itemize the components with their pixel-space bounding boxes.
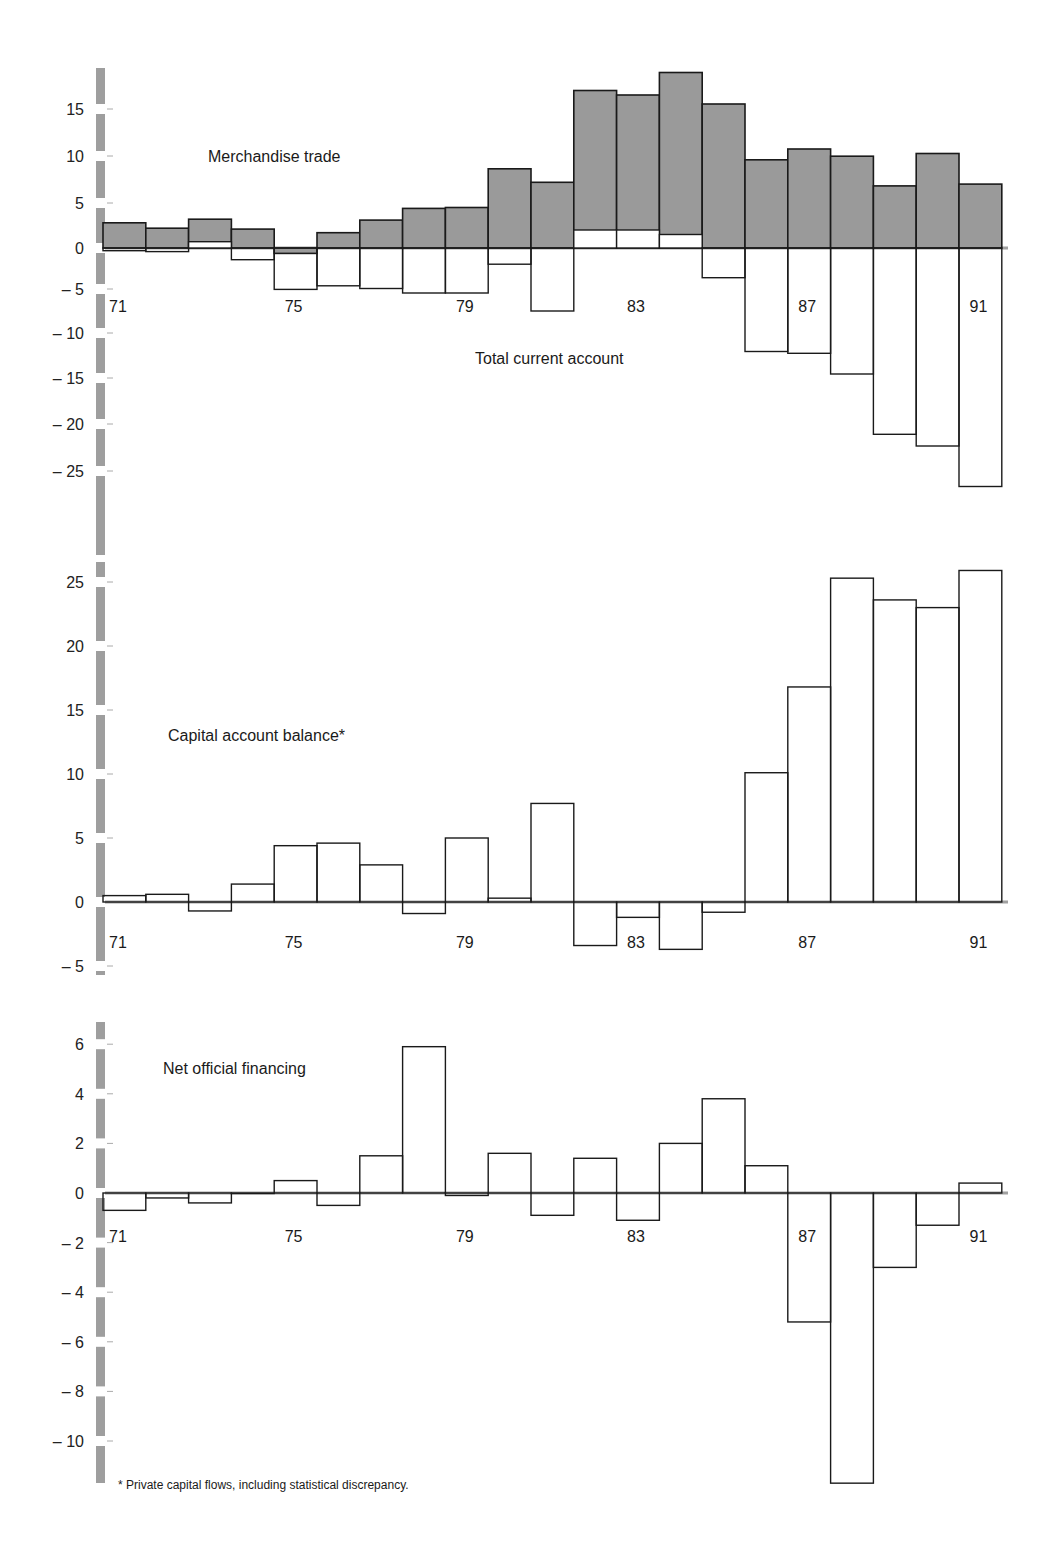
- axis-bar-segment: [96, 907, 105, 961]
- y-tick-label: 15: [66, 702, 84, 719]
- axis-bar-segment: [96, 1248, 105, 1288]
- value-bar: [403, 248, 446, 293]
- merchandise-bar: [788, 149, 831, 248]
- value-bar: [659, 235, 702, 249]
- value-bar: [745, 248, 788, 352]
- x-year-label: 71: [109, 1228, 127, 1245]
- value-bar: [403, 1047, 446, 1193]
- value-bar: [831, 578, 874, 902]
- value-bar: [488, 1153, 531, 1193]
- axis-bar-segment: [96, 429, 105, 466]
- value-bar: [788, 687, 831, 902]
- merchandise-bar: [916, 154, 959, 249]
- x-year-label: 75: [285, 934, 303, 951]
- x-year-label: 91: [970, 1228, 988, 1245]
- merchandise-bar: [103, 223, 146, 248]
- y-tick-label: 20: [66, 638, 84, 655]
- axis-bar-segment: [96, 338, 105, 373]
- y-tick-label: – 15: [53, 370, 84, 387]
- value-bar: [745, 773, 788, 902]
- series-label-current-account: Total current account: [475, 350, 624, 367]
- value-bar: [574, 1158, 617, 1193]
- axis-bar-segment: [96, 114, 105, 151]
- y-tick-label: 10: [66, 148, 84, 165]
- value-bar: [959, 570, 1002, 902]
- y-tick-label: 0: [75, 240, 84, 257]
- x-year-label: 91: [970, 934, 988, 951]
- value-bar: [274, 248, 317, 289]
- value-bar: [317, 843, 360, 902]
- y-tick-label: 10: [66, 766, 84, 783]
- y-tick-label: 25: [66, 574, 84, 591]
- merchandise-bar: [403, 208, 446, 248]
- value-bar: [103, 1193, 146, 1210]
- value-bar: [574, 230, 617, 248]
- panel-merchandise-current-account: 151050– 5– 10– 15– 20– 25717579838791Mer…: [53, 68, 1008, 555]
- merchandise-bar: [873, 186, 916, 248]
- value-bar: [360, 248, 403, 289]
- y-tick-label: 5: [75, 195, 84, 212]
- value-bar: [488, 898, 531, 902]
- value-bar: [617, 1193, 660, 1220]
- merchandise-bar: [231, 229, 274, 248]
- merchandise-bar: [531, 182, 574, 248]
- y-tick-label: 6: [75, 1036, 84, 1053]
- y-tick-label: 0: [75, 894, 84, 911]
- value-bar: [488, 248, 531, 264]
- x-year-label: 91: [970, 298, 988, 315]
- value-bar: [959, 248, 1002, 487]
- y-tick-label: – 20: [53, 416, 84, 433]
- value-bar: [831, 1193, 874, 1483]
- merchandise-bar: [702, 104, 745, 248]
- value-bar: [788, 1193, 831, 1322]
- panel-title: Net official financing: [163, 1060, 306, 1077]
- x-year-label: 79: [456, 298, 474, 315]
- y-tick-label: – 2: [62, 1235, 84, 1252]
- x-year-label: 83: [627, 1228, 645, 1245]
- x-year-label: 87: [798, 934, 816, 951]
- axis-bar-segment: [96, 161, 105, 198]
- value-bar: [702, 902, 745, 912]
- y-tick-label: – 6: [62, 1334, 84, 1351]
- axis-bar-segment: [96, 1099, 105, 1139]
- value-bar: [873, 248, 916, 434]
- value-bar: [574, 902, 617, 946]
- x-year-label: 83: [627, 298, 645, 315]
- y-tick-label: 0: [75, 1185, 84, 1202]
- value-bar: [916, 248, 959, 446]
- panel-net-official-financing: 6420– 2– 4– 6– 8– 10717579838791Net offi…: [53, 1022, 1008, 1483]
- axis-bar-segment: [96, 587, 105, 641]
- value-bar: [659, 902, 702, 949]
- value-bar: [189, 242, 232, 248]
- value-bar: [360, 1156, 403, 1193]
- x-year-label: 79: [456, 934, 474, 951]
- value-bar: [702, 1099, 745, 1193]
- value-bar: [146, 248, 189, 252]
- y-tick-label: 5: [75, 830, 84, 847]
- y-tick-label: – 5: [62, 281, 84, 298]
- axis-bar-segment: [96, 383, 105, 419]
- value-bar: [231, 884, 274, 902]
- y-tick-label: 15: [66, 101, 84, 118]
- merchandise-bar: [274, 248, 317, 253]
- axis-bar-segment: [96, 1347, 105, 1387]
- axis-bar-segment: [96, 715, 105, 769]
- value-bar: [231, 1193, 274, 1194]
- x-year-label: 79: [456, 1228, 474, 1245]
- merchandise-bar: [659, 73, 702, 249]
- axis-bar-segment: [96, 294, 105, 328]
- value-bar: [531, 1193, 574, 1215]
- x-year-label: 87: [798, 298, 816, 315]
- merchandise-bar: [317, 233, 360, 248]
- merchandise-bar: [959, 184, 1002, 248]
- value-bar: [702, 248, 745, 278]
- y-tick-label: – 5: [62, 958, 84, 975]
- axis-bar-segment: [96, 651, 105, 705]
- y-tick-label: – 4: [62, 1284, 84, 1301]
- value-bar: [617, 902, 660, 917]
- value-bar: [274, 1181, 317, 1193]
- value-bar: [317, 248, 360, 286]
- y-tick-label: – 10: [53, 1433, 84, 1450]
- value-bar: [873, 1193, 916, 1267]
- value-bar: [231, 248, 274, 260]
